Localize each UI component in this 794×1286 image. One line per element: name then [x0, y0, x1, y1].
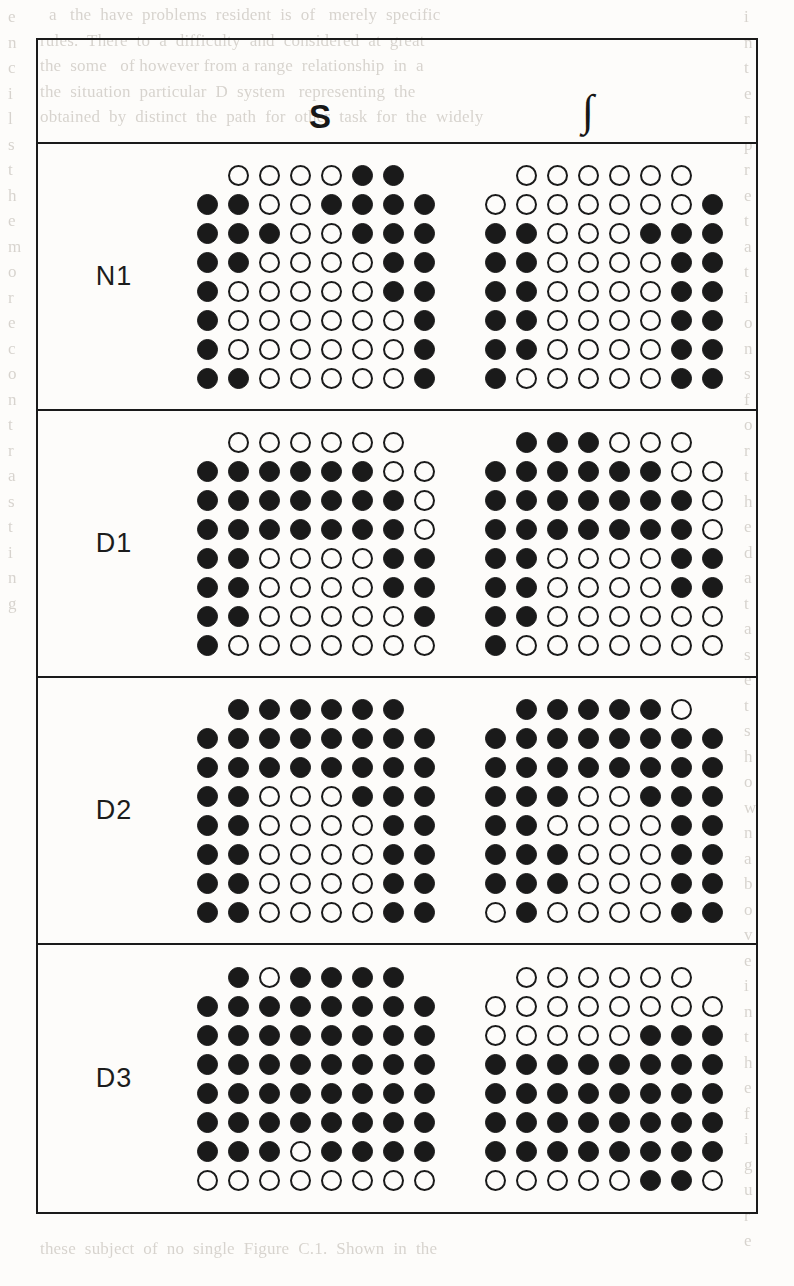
open-circle-icon: [702, 519, 723, 540]
open-circle-icon: [352, 1170, 373, 1191]
filled-circle-icon: [414, 757, 435, 778]
open-circle-icon: [259, 548, 280, 569]
filled-circle-icon: [290, 519, 311, 540]
filled-circle-icon: [547, 699, 568, 720]
filled-circle-icon: [547, 519, 568, 540]
open-circle-icon: [609, 194, 630, 215]
filled-circle-icon: [321, 699, 342, 720]
filled-circle-icon: [671, 786, 692, 807]
filled-circle-icon: [671, 223, 692, 244]
open-circle-icon: [290, 194, 311, 215]
filled-circle-icon: [228, 490, 249, 511]
filled-circle-icon: [671, 1054, 692, 1075]
matrix-row-d3: D3: [38, 945, 756, 1212]
filled-circle-icon: [197, 461, 218, 482]
filled-circle-icon: [197, 339, 218, 360]
filled-circle-icon: [321, 967, 342, 988]
open-circle-icon: [290, 310, 311, 331]
open-circle-icon: [609, 281, 630, 302]
filled-circle-icon: [414, 786, 435, 807]
open-circle-icon: [640, 635, 661, 656]
open-circle-icon: [290, 281, 311, 302]
filled-circle-icon: [547, 844, 568, 865]
open-circle-icon: [321, 844, 342, 865]
open-circle-icon: [609, 252, 630, 273]
open-circle-icon: [259, 165, 280, 186]
open-circle-icon: [383, 635, 404, 656]
filled-circle-icon: [702, 1112, 723, 1133]
filled-circle-icon: [414, 252, 435, 273]
filled-circle-icon: [259, 1054, 280, 1075]
filled-circle-icon: [671, 757, 692, 778]
filled-circle-icon: [259, 699, 280, 720]
open-circle-icon: [414, 1170, 435, 1191]
filled-circle-icon: [485, 490, 506, 511]
filled-circle-icon: [228, 786, 249, 807]
open-circle-icon: [578, 252, 599, 273]
filled-circle-icon: [671, 519, 692, 540]
filled-circle-icon: [485, 1112, 506, 1133]
open-circle-icon: [671, 432, 692, 453]
open-circle-icon: [259, 252, 280, 273]
open-circle-icon: [290, 1170, 311, 1191]
open-circle-icon: [702, 635, 723, 656]
grid-pair: [190, 695, 756, 927]
open-circle-icon: [321, 606, 342, 627]
filled-circle-icon: [609, 490, 630, 511]
filled-circle-icon: [228, 606, 249, 627]
filled-circle-icon: [609, 728, 630, 749]
column-header-s: S: [190, 98, 450, 136]
empty-cell: [485, 967, 506, 988]
filled-circle-icon: [485, 815, 506, 836]
filled-circle-icon: [383, 996, 404, 1017]
open-circle-icon: [640, 967, 661, 988]
open-circle-icon: [671, 606, 692, 627]
open-circle-icon: [290, 1141, 311, 1162]
filled-circle-icon: [702, 252, 723, 273]
filled-circle-icon: [321, 1083, 342, 1104]
filled-circle-icon: [609, 519, 630, 540]
filled-circle-icon: [485, 757, 506, 778]
filled-circle-icon: [671, 844, 692, 865]
filled-circle-icon: [259, 996, 280, 1017]
open-circle-icon: [290, 339, 311, 360]
open-circle-icon: [547, 252, 568, 273]
empty-cell: [197, 165, 218, 186]
open-circle-icon: [290, 844, 311, 865]
matrix-row-d1: D1: [38, 411, 756, 678]
filled-circle-icon: [702, 786, 723, 807]
filled-circle-icon: [414, 310, 435, 331]
filled-circle-icon: [609, 1141, 630, 1162]
empty-cell: [702, 967, 723, 988]
matrix-row-n1: N1: [38, 144, 756, 411]
filled-circle-icon: [485, 577, 506, 598]
filled-circle-icon: [414, 844, 435, 865]
filled-circle-icon: [414, 577, 435, 598]
filled-circle-icon: [383, 577, 404, 598]
filled-circle-icon: [671, 1025, 692, 1046]
figure-frame: S ∫ N1D1D2D3: [36, 38, 758, 1214]
filled-circle-icon: [516, 490, 537, 511]
open-circle-icon: [640, 996, 661, 1017]
open-circle-icon: [290, 815, 311, 836]
filled-circle-icon: [578, 490, 599, 511]
filled-circle-icon: [228, 194, 249, 215]
filled-circle-icon: [640, 1141, 661, 1162]
filled-circle-icon: [671, 815, 692, 836]
open-circle-icon: [640, 815, 661, 836]
open-circle-icon: [609, 786, 630, 807]
open-circle-icon: [609, 873, 630, 894]
open-circle-icon: [259, 1170, 280, 1191]
filled-circle-icon: [228, 996, 249, 1017]
filled-circle-icon: [321, 757, 342, 778]
filled-circle-icon: [671, 1141, 692, 1162]
filled-circle-icon: [547, 1054, 568, 1075]
open-circle-icon: [228, 635, 249, 656]
open-circle-icon: [352, 873, 373, 894]
filled-circle-icon: [197, 902, 218, 923]
open-circle-icon: [259, 844, 280, 865]
open-circle-icon: [578, 577, 599, 598]
filled-circle-icon: [702, 1083, 723, 1104]
open-circle-icon: [383, 310, 404, 331]
filled-circle-icon: [671, 339, 692, 360]
